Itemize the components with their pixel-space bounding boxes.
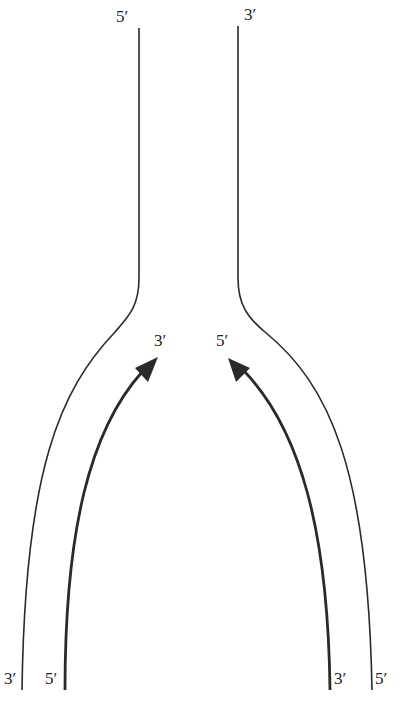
label-top-right: 3′ [244,6,256,23]
label-top-left: 5′ [116,8,128,25]
label-bottom-left-outer: 3′ [4,670,16,687]
label-bottom-left-inner: 5′ [45,670,57,687]
daughter-strand-right [245,372,330,690]
label-bottom-right-outer: 5′ [375,670,387,687]
daughter-strand-left [65,372,142,690]
parent-strand-right [238,26,372,690]
label-fork-right: 5′ [216,332,228,349]
label-bottom-right-inner: 3′ [334,670,346,687]
label-fork-left: 3′ [154,332,166,349]
replication-fork-diagram [0,0,406,707]
parent-strand-left [22,28,139,690]
arrowhead-right-icon [228,358,250,382]
